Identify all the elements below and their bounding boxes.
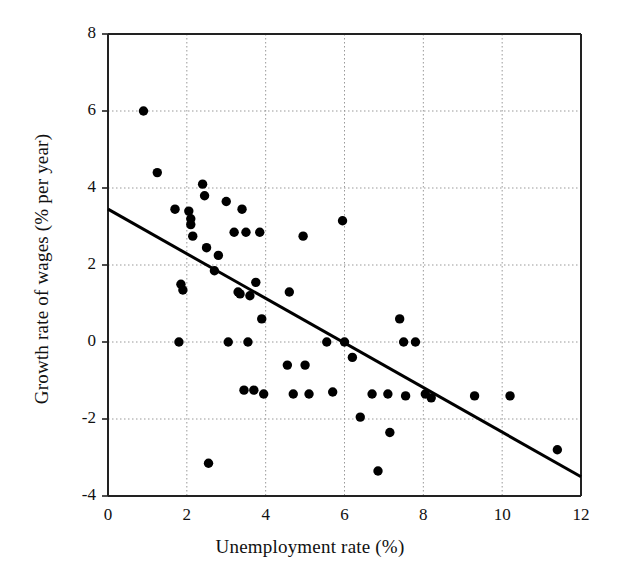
data-point [188, 231, 197, 240]
data-point [243, 337, 252, 346]
data-point [235, 289, 244, 298]
y-tick-label: 6 [52, 100, 96, 120]
data-point [255, 228, 264, 237]
x-tick-label: 6 [325, 505, 365, 525]
data-point [338, 216, 347, 225]
data-point [328, 387, 337, 396]
data-point [348, 353, 357, 362]
y-axis-title: Growth rate of wages (% per year) [31, 39, 53, 499]
gridlines-group [108, 34, 581, 496]
data-point [222, 197, 231, 206]
data-point [367, 389, 376, 398]
data-point [245, 291, 254, 300]
data-point [174, 337, 183, 346]
data-point [170, 204, 179, 213]
data-point [153, 168, 162, 177]
data-point [553, 445, 562, 454]
y-tick-label: 4 [52, 177, 96, 197]
x-tick-label: 2 [167, 505, 207, 525]
y-tick-label: 0 [52, 331, 96, 351]
y-tick-label: 8 [52, 23, 96, 43]
data-point [401, 391, 410, 400]
x-tick-label: 12 [561, 505, 601, 525]
data-point [198, 179, 207, 188]
data-point [505, 391, 514, 400]
data-point [385, 428, 394, 437]
data-point [186, 220, 195, 229]
data-point [304, 389, 313, 398]
y-tick-label: -2 [52, 408, 96, 428]
data-point [178, 285, 187, 294]
x-axis-title: Unemployment rate (%) [0, 536, 620, 558]
data-point [411, 337, 420, 346]
data-point [283, 360, 292, 369]
data-point [204, 459, 213, 468]
data-point [139, 106, 148, 115]
x-tick-label: 0 [88, 505, 128, 525]
data-point [200, 191, 209, 200]
data-point [224, 337, 233, 346]
data-point [257, 314, 266, 323]
data-point [237, 204, 246, 213]
scatter-plot-figure: 024681012-4-202468 Unemployment rate (%)… [0, 0, 620, 585]
data-point [300, 360, 309, 369]
data-point [229, 228, 238, 237]
data-point [239, 385, 248, 394]
x-tick-label: 8 [403, 505, 443, 525]
data-points-group [139, 106, 562, 475]
data-point [298, 231, 307, 240]
data-point [470, 391, 479, 400]
data-point [383, 389, 392, 398]
data-point [249, 385, 258, 394]
data-point [251, 278, 260, 287]
data-point [356, 412, 365, 421]
data-point [202, 243, 211, 252]
data-point [259, 389, 268, 398]
y-tick-label: -4 [52, 485, 96, 505]
x-tick-label: 4 [246, 505, 286, 525]
data-point [399, 337, 408, 346]
data-point [241, 228, 250, 237]
y-tick-label: 2 [52, 254, 96, 274]
data-point [285, 287, 294, 296]
data-point [427, 393, 436, 402]
data-point [340, 337, 349, 346]
data-point [214, 251, 223, 260]
x-tick-label: 10 [482, 505, 522, 525]
data-point [395, 314, 404, 323]
data-point [373, 466, 382, 475]
data-point [289, 389, 298, 398]
data-point [322, 337, 331, 346]
data-point [210, 266, 219, 275]
